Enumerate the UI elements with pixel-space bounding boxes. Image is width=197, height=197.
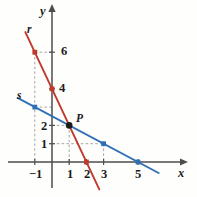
data-point-markers [32,50,140,165]
x-tick-label-5: 5 [135,168,141,181]
x-tick-label-neg1: −1 [29,168,42,181]
point-P [66,122,73,129]
x-axis-arrowhead [180,158,188,165]
x-tick-label-1: 1 [67,168,73,181]
x-axis-label: x [178,167,184,180]
y-tick-label-2: 2 [41,120,47,133]
line-label-s: s [17,90,21,102]
marker-s-5-0 [136,160,141,165]
y-tick-label-1: 1 [41,138,47,151]
line-label-r: r [27,24,31,36]
point-label-P: P [76,113,83,125]
plotted-lines [18,32,159,189]
coordinate-plane-figure: −1 1 2 3 5 1 2 4 6 x y r s P [0,0,197,197]
y-axis-label: y [40,5,46,18]
x-tick-label-2: 2 [84,168,90,181]
x-tick-label-3: 3 [101,168,107,181]
y-tick-label-4: 4 [59,82,65,95]
y-axis-arrowhead [48,4,55,12]
marker-s-3-1 [101,141,106,146]
intersection-point [66,122,73,129]
marker-s--1-3 [32,105,37,110]
axis-ticks [35,52,138,165]
marker-r-0-4 [50,86,55,91]
y-tick-label-6: 6 [61,45,67,58]
marker-r--1-6 [32,50,37,55]
marker-r-2-0 [84,160,89,165]
